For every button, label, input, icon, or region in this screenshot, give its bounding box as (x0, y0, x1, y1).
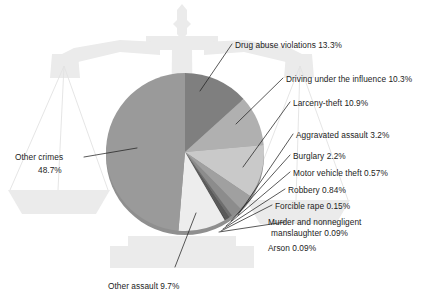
leader-dui (236, 78, 283, 124)
callout-murder-line2: manslaughter 0.09% (271, 228, 348, 238)
callout-driving-under-the-influence: Driving under the influence 10.3% (286, 74, 412, 84)
leader-drug-abuse (200, 44, 232, 91)
callout-other-crimes-line1: Other crimes (15, 152, 63, 162)
callout-murder-line1: Murder and nonnegligent (268, 217, 361, 227)
callout-robbery: Robbery 0.84% (288, 185, 346, 195)
callout-arson: Arson 0.09% (268, 243, 316, 253)
chart-canvas: Drug abuse violations 13.3% Driving unde… (0, 0, 437, 303)
callout-other-crimes-line2: 48.7% (38, 165, 62, 175)
callout-motor-vehicle-theft: Motor vehicle theft 0.57% (293, 168, 388, 178)
callout-aggravated-assault: Aggravated assault 3.2% (296, 130, 389, 140)
callout-other-assault: Other assault 9.7% (108, 281, 179, 291)
leader-larceny (243, 102, 290, 167)
leader-other-assault (175, 213, 196, 267)
callout-drug-abuse-violations: Drug abuse violations 13.3% (235, 40, 342, 50)
callout-larceny-theft: Larceny-theft 10.9% (293, 98, 368, 108)
leader-other-crimes (84, 148, 137, 157)
leader-lines (0, 0, 437, 303)
callout-burglary: Burglary 2.2% (293, 151, 346, 161)
callout-forcible-rape: Forcible rape 0.15% (275, 201, 350, 211)
